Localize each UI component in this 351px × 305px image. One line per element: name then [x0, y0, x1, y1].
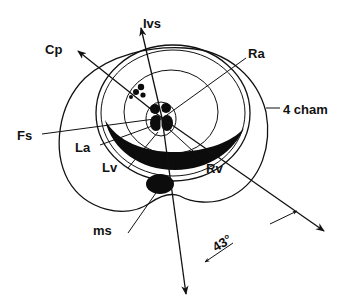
- label-ivs: Ivs: [143, 16, 161, 31]
- label-4-cham: 4 cham: [283, 102, 328, 117]
- label-lv: Lv: [102, 160, 118, 175]
- label-ra: Ra: [248, 46, 265, 61]
- label-rv: Rv: [206, 161, 223, 176]
- scan-plane-diagram: Ivs Cp Ra Fs 4 cham La Lv Rv ms 43°: [0, 0, 351, 305]
- label-la: La: [75, 140, 91, 155]
- label-angle: 43°: [210, 231, 235, 254]
- label-ms: ms: [93, 223, 112, 238]
- label-cp: Cp: [45, 42, 62, 57]
- cp-cluster: [129, 84, 146, 99]
- label-fs: Fs: [17, 128, 32, 143]
